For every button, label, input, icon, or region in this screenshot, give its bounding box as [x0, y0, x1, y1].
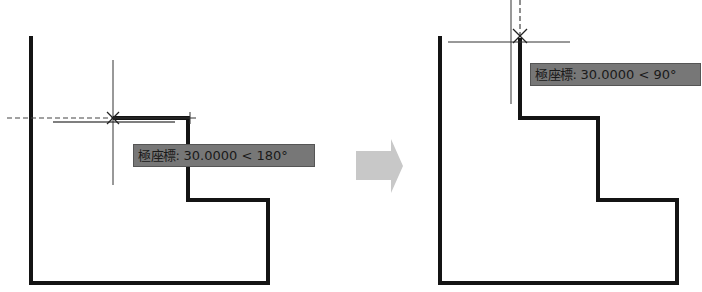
- right-panel: [440, 0, 677, 283]
- right-arrow-icon: [356, 139, 403, 193]
- tooltip-label: 極座標:: [138, 148, 179, 163]
- tooltip-value: 30.0000 < 90°: [581, 67, 677, 82]
- right-polar-coordinate-tooltip: 極座標: 30.0000 < 90°: [530, 63, 701, 86]
- tooltip-label: 極座標:: [535, 67, 576, 82]
- cad-diagram-canvas: [0, 0, 702, 292]
- tooltip-value: 30.0000 < 180°: [184, 148, 288, 163]
- left-polar-coordinate-tooltip: 極座標: 30.0000 < 180°: [133, 144, 315, 167]
